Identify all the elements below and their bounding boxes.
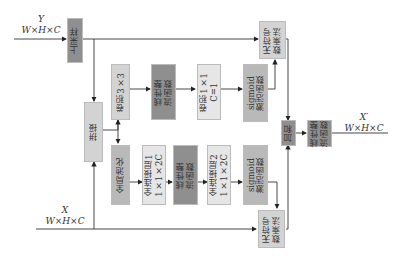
conv3x3-block: 卷积3×3 xyxy=(111,64,130,120)
input-y-label: Y W×H×C xyxy=(16,14,66,36)
sigmoid-bot-block: sigmoid 激活函数 xyxy=(243,145,268,205)
input-x-name: X xyxy=(40,205,90,216)
add-block: 加和 xyxy=(281,120,296,146)
upsample-label: 上采样 xyxy=(70,27,80,54)
fc1-label: 全连接层1 1×1×2C xyxy=(144,154,164,197)
multiply-top-label: 无符号 数乘法 xyxy=(263,27,283,54)
relu-out-block: 线性整 流函数 xyxy=(307,120,332,147)
conv1x1-label: 卷积1×1 C=1 xyxy=(199,73,219,112)
relu-top-label: 线性整 流函数 xyxy=(154,79,174,106)
sigmoid-top-block: sigmoid 激活函数 xyxy=(243,64,268,122)
input-y-shape: W×H×C xyxy=(16,25,66,36)
global-pool-label: 全局池化 xyxy=(116,157,126,193)
multiply-bot-block: 无符号 数乘法 xyxy=(258,210,285,248)
input-x-shape: W×H×C xyxy=(40,216,90,227)
fc2-label: 全连接层2 1×1×2C xyxy=(209,154,229,197)
relu-top-block: 线性整 流函数 xyxy=(151,64,176,120)
multiply-top-block: 无符号 数乘法 xyxy=(259,21,286,59)
conv1x1-block: 卷积1×1 C=1 xyxy=(197,64,221,120)
add-label: 加和 xyxy=(284,124,294,142)
relu-mid-block: 线性整 流函数 xyxy=(173,145,198,205)
fc1-block: 全连接层1 1×1×2C xyxy=(142,145,166,205)
concat-block: 拼接 xyxy=(84,102,103,162)
input-x-label: X W×H×C xyxy=(40,205,90,227)
relu-out-label: 线性整 流函数 xyxy=(310,120,330,147)
sigmoid-bot-label: sigmoid 激活函数 xyxy=(246,157,266,193)
input-y-name: Y xyxy=(16,14,66,25)
upsample-block: 上采样 xyxy=(67,18,83,63)
concat-label: 拼接 xyxy=(89,123,99,141)
output-shape: W×H×C xyxy=(336,123,392,134)
output-name: X′ xyxy=(336,112,392,123)
sigmoid-top-label: sigmoid 激活函数 xyxy=(246,75,266,111)
fc2-block: 全连接层2 1×1×2C xyxy=(207,145,231,205)
relu-mid-label: 线性整 流函数 xyxy=(176,162,196,189)
conv3x3-label: 卷积3×3 xyxy=(116,73,126,112)
output-label: X′ W×H×C xyxy=(336,112,392,134)
multiply-bot-label: 无符号 数乘法 xyxy=(262,216,282,243)
global-pool-block: 全局池化 xyxy=(111,145,130,205)
